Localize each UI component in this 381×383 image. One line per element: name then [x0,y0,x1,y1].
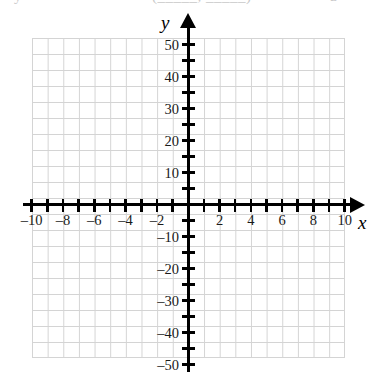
x-tick [171,199,174,212]
y-tick [182,219,195,222]
y-tick-label-row: –10 [0,237,179,254]
y-tick-label-row: 50 [0,45,179,62]
x-tick-label: –4 [118,212,133,229]
y-tick [182,235,195,238]
coordinate-plane: –10–8–6–4–2246810 5040302010–10–20–30–40… [0,0,381,383]
y-tick-label: –30 [0,292,179,309]
x-tick [109,199,112,212]
x-tick [281,199,284,212]
y-tick-label: 40 [0,68,179,85]
y-tick [182,283,195,286]
x-tick-label: 4 [247,212,254,229]
x-tick [328,199,331,212]
y-tick-label-row: 30 [0,109,179,126]
x-tick-label: –8 [56,212,71,229]
y-tick [182,123,195,126]
y-tick-label: –50 [0,356,179,373]
y-axis-label: y [161,12,169,34]
y-tick-label-row: 10 [0,173,179,190]
x-tick [265,199,268,212]
x-tick [140,199,143,212]
y-tick-label-row: 40 [0,77,179,94]
x-tick [46,199,49,212]
y-tick-label-row: 20 [0,141,179,158]
x-tick [93,199,96,212]
x-tick [343,199,346,212]
x-axis-label: x [358,212,366,234]
y-tick-label: 20 [0,132,179,149]
y-tick-label-row: –40 [0,333,179,350]
x-tick-label: 6 [278,212,285,229]
y-tick-label-row: –50 [0,365,179,382]
y-tick [182,363,195,366]
x-tick [203,199,206,212]
x-tick-label: –6 [87,212,102,229]
y-tick [182,331,195,334]
y-tick [182,75,195,78]
x-tick [312,199,315,212]
y-axis-arrowhead-icon [180,13,196,28]
y-tick-label: 10 [0,164,179,181]
y-tick [182,187,195,190]
x-tick-label: 2 [216,212,223,229]
x-tick-label: –2 [150,212,165,229]
y-tick-label: –10 [0,228,179,245]
y-tick [182,107,195,110]
x-tick [77,199,80,212]
y-tick-label: –40 [0,324,179,341]
y-tick-label-row: –30 [0,301,179,318]
y-tick [182,91,195,94]
x-tick-label: 10 [337,212,352,229]
y-tick [182,347,195,350]
y-tick [182,267,195,270]
y-tick [182,139,195,142]
y-tick-label-row: –20 [0,269,179,286]
y-tick [182,43,195,46]
y-tick [182,155,195,158]
x-tick [234,199,237,212]
x-axis-arrowhead-icon [350,197,365,213]
x-tick [156,199,159,212]
y-tick [182,315,195,318]
y-tick-label: 50 [0,36,179,53]
figure-page: y (_____, _____) a –10–8–6–4–2246810 504… [0,0,381,383]
x-tick [30,199,33,212]
y-tick [182,299,195,302]
x-tick-label: 8 [310,212,317,229]
x-tick [218,199,221,212]
x-tick [250,199,253,212]
y-tick-label: –20 [0,260,179,277]
y-tick [182,251,195,254]
y-tick-label: 30 [0,100,179,117]
x-tick-label: –10 [21,212,43,229]
y-tick [182,171,195,174]
x-tick [296,199,299,212]
x-tick [62,199,65,212]
x-tick [124,199,127,212]
y-tick [182,59,195,62]
